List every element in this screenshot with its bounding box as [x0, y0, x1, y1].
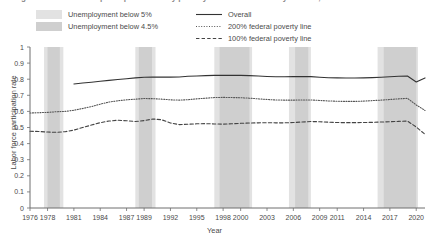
legend-item-200-fpl: 200% federal poverty line — [196, 21, 311, 32]
shaded-band — [384, 47, 416, 208]
legend-label-overall: Overall — [228, 10, 251, 19]
y-tick-label: 0.2 — [0, 172, 24, 179]
y-tick-label: 0.4 — [0, 140, 24, 147]
figure-title: Figure 10. Labor force participation rat… — [14, 0, 429, 2]
legend-item-overall: Overall — [196, 9, 311, 20]
y-tick-label: 0.5 — [0, 124, 24, 131]
shaded-band — [295, 47, 308, 208]
legend-label-unemployment-below-5: Unemployment below 5% — [68, 10, 152, 19]
legend-shading-column: Unemployment below 5% Unemployment below… — [36, 9, 158, 33]
y-tick-label: 0 — [0, 205, 24, 212]
shaded-band — [48, 47, 60, 208]
shaded-band — [139, 47, 152, 208]
shaded-band — [220, 47, 250, 208]
x-tick-label: 2020 — [400, 214, 429, 221]
y-tick-label: 0.8 — [0, 76, 24, 83]
dotted-line-key — [196, 22, 222, 31]
plot-area: Labor force participation rate Year 00.1… — [0, 40, 429, 250]
y-tick-label: 0.1 — [0, 188, 24, 195]
legend-item-unemployment-below-4-5: Unemployment below 4.5% — [36, 21, 158, 32]
figure-container: Figure 10. Labor force participation rat… — [0, 0, 429, 250]
y-tick-label: 0.3 — [0, 156, 24, 163]
light-gray-swatch — [36, 10, 62, 19]
legend-item-unemployment-below-5: Unemployment below 5% — [36, 9, 158, 20]
x-axis-label: Year — [0, 226, 429, 235]
y-tick-label: 0.9 — [0, 60, 24, 67]
solid-line-key — [196, 10, 222, 19]
y-tick-label: 0.6 — [0, 108, 24, 115]
chart-legend: Unemployment below 5% Unemployment below… — [0, 9, 429, 41]
legend-label-unemployment-below-4-5: Unemployment below 4.5% — [68, 22, 158, 31]
y-tick-label: 1 — [0, 44, 24, 51]
dark-gray-swatch — [36, 22, 62, 31]
legend-label-200-fpl: 200% federal poverty line — [228, 22, 311, 31]
y-tick-label: 0.7 — [0, 92, 24, 99]
